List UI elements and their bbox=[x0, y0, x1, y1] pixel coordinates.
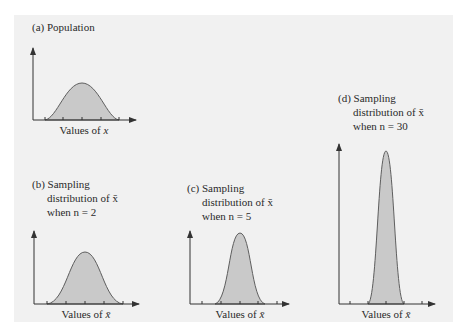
sampling-curve-n5 bbox=[215, 233, 265, 304]
panel-c-plot bbox=[190, 231, 289, 304]
sampling-curve-n2 bbox=[47, 252, 123, 304]
sampling-curve-n30 bbox=[368, 151, 404, 304]
panel-d-plot bbox=[339, 144, 435, 304]
population-curve bbox=[45, 83, 119, 120]
panel-b-plot bbox=[34, 231, 139, 304]
plots-svg bbox=[0, 0, 467, 336]
panel-a-plot bbox=[33, 48, 136, 120]
